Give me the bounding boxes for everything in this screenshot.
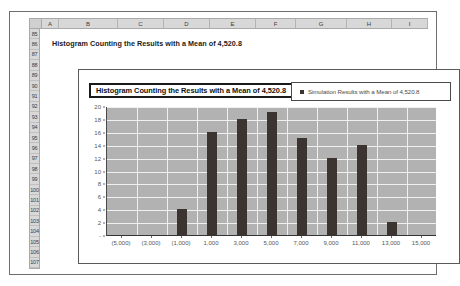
row-header-98[interactable]: 98 (30, 164, 39, 174)
chart-legend[interactable]: Simulation Results with a Mean of 4,520.… (291, 82, 451, 101)
document-page-frame: A B C D E F G H I 8586878889909192939495… (9, 11, 437, 275)
legend-label-series-1: Simulation Results with a Mean of 4,520.… (308, 88, 419, 95)
row-header-100[interactable]: 100 (30, 185, 39, 195)
bar-1000[interactable] (207, 132, 218, 235)
column-header-g[interactable]: G (296, 19, 347, 28)
row-header-87[interactable]: 87 (30, 50, 39, 60)
y-tick-label-10: 10 (94, 169, 101, 175)
column-header-d[interactable]: D (164, 19, 210, 28)
gridline-vertical (227, 107, 228, 235)
row-header-103[interactable]: 103 (30, 216, 39, 226)
x-tick-mark (241, 236, 242, 238)
column-header-e[interactable]: E (210, 19, 256, 28)
select-all-corner[interactable] (30, 19, 42, 28)
row-header-106[interactable]: 106 (30, 247, 39, 257)
bar-3000[interactable] (237, 119, 248, 235)
x-tick-label-11000: 11,000 (352, 240, 370, 246)
gridline-vertical (317, 107, 318, 235)
row-header-105[interactable]: 105 (30, 237, 39, 247)
x-tick-label-5000: 5,000 (263, 240, 278, 246)
bar-5000[interactable] (267, 112, 278, 235)
chart-plot-wrapper: -2468101214161820 (5,000)(3,000)(1,000)1… (87, 107, 453, 255)
x-tick-label-15000: 15,000 (412, 240, 430, 246)
row-header-86[interactable]: 86 (30, 39, 39, 49)
bar-13000[interactable] (387, 222, 398, 235)
y-tick-mark (103, 107, 105, 108)
gridline-vertical (287, 107, 288, 235)
row-header-102[interactable]: 102 (30, 206, 39, 216)
y-tick-label-8: 8 (98, 181, 101, 187)
y-tick-label-4: 4 (98, 207, 101, 213)
row-header-93[interactable]: 93 (30, 112, 39, 122)
y-tick-mark (103, 145, 105, 146)
column-header-a[interactable]: A (42, 19, 59, 28)
column-header-i[interactable]: I (392, 19, 428, 28)
row-header-91[interactable]: 91 (30, 91, 39, 101)
y-tick-label-16: 16 (94, 130, 101, 136)
x-tick-label-9000: 9,000 (323, 240, 338, 246)
row-header-90[interactable]: 90 (30, 81, 39, 91)
row-header-101[interactable]: 101 (30, 195, 39, 205)
gridline-vertical (407, 107, 408, 235)
gridline-vertical (167, 107, 168, 235)
x-tick-label-1000: 1,000 (203, 240, 218, 246)
gridline-vertical (257, 107, 258, 235)
cell-b86-text: Histogram Counting the Results with a Me… (52, 39, 242, 48)
row-header-96[interactable]: 96 (30, 143, 39, 153)
x-tick-mark (331, 236, 332, 238)
y-tick-mark (103, 158, 105, 159)
y-tick-label-20: 20 (94, 104, 101, 110)
x-tick-label-3000: (3,000) (141, 240, 160, 246)
gridline-vertical (347, 107, 348, 235)
bar-11000[interactable] (357, 145, 368, 235)
x-tick-label-5000: (5,000) (111, 240, 130, 246)
row-header-89[interactable]: 89 (30, 71, 39, 81)
y-tick-label-18: 18 (94, 117, 101, 123)
plot-area (106, 107, 436, 236)
gridline-vertical (377, 107, 378, 235)
column-header-f[interactable]: F (256, 19, 296, 28)
row-header-94[interactable]: 94 (30, 123, 39, 133)
x-tick-mark (301, 236, 302, 238)
row-header-107[interactable]: 107 (30, 258, 39, 268)
column-header-h[interactable]: H (347, 19, 392, 28)
gridline-vertical (197, 107, 198, 235)
y-tick-label-14: 14 (94, 143, 101, 149)
embedded-chart-object[interactable]: Histogram Counting the Results with a Me… (78, 69, 460, 264)
x-tick-mark (391, 236, 392, 238)
x-tick-label-1000: (1,000) (171, 240, 190, 246)
chart-title: Histogram Counting the Results with a Me… (96, 86, 286, 95)
y-tick-mark (103, 132, 105, 133)
x-tick-label-13000: 13,000 (382, 240, 400, 246)
chart-title-box[interactable]: Histogram Counting the Results with a Me… (89, 83, 293, 98)
x-tick-label-3000: 3,000 (233, 240, 248, 246)
y-tick-mark (103, 236, 105, 237)
row-header-85[interactable]: 85 (30, 29, 39, 39)
column-header-row: A B C D E F G H I (29, 18, 428, 29)
x-tick-mark (121, 236, 122, 238)
row-header-104[interactable]: 104 (30, 226, 39, 236)
gridline-horizontal (107, 107, 436, 108)
column-header-b[interactable]: B (59, 19, 118, 28)
y-tick-mark (103, 171, 105, 172)
column-header-c[interactable]: C (118, 19, 164, 28)
x-tick-mark (151, 236, 152, 238)
bar-1000[interactable] (177, 209, 188, 235)
y-tick-label-2: 2 (98, 220, 101, 226)
y-tick-mark (103, 184, 105, 185)
row-header-92[interactable]: 92 (30, 102, 39, 112)
y-tick-mark (103, 210, 105, 211)
row-header-95[interactable]: 95 (30, 133, 39, 143)
x-tick-mark (181, 236, 182, 238)
x-tick-mark (421, 236, 422, 238)
row-header-99[interactable]: 99 (30, 174, 39, 184)
legend-swatch-icon (300, 90, 304, 94)
x-tick-mark (271, 236, 272, 238)
bar-9000[interactable] (327, 158, 338, 235)
bar-7000[interactable] (297, 138, 308, 235)
row-header-88[interactable]: 88 (30, 60, 39, 70)
y-tick-mark (103, 197, 105, 198)
row-header-97[interactable]: 97 (30, 154, 39, 164)
y-tick-mark (103, 223, 105, 224)
y-tick-mark (103, 119, 105, 120)
